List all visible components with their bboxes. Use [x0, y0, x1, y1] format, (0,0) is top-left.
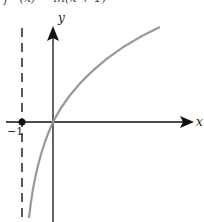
y-axis-label: y	[57, 11, 65, 25]
tick-neg-one: −1	[7, 125, 23, 138]
chart-canvas: y x −1	[0, 0, 204, 222]
x-axis-label: x	[196, 115, 203, 129]
